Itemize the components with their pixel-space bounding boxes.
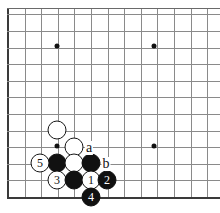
grid-line-horizontal (7, 131, 220, 132)
move-number: 1 (88, 174, 94, 186)
grid-line-vertical (191, 8, 192, 198)
grid-line-horizontal (7, 114, 220, 115)
grid-line-horizontal (7, 147, 220, 148)
grid-line-vertical (157, 8, 158, 198)
grid-line-vertical (174, 8, 175, 198)
grid-line-vertical (124, 8, 125, 198)
star-point (152, 144, 157, 149)
stone-white-5: 5 (31, 154, 50, 173)
star-point (55, 144, 60, 149)
grid-line-vertical (207, 8, 208, 198)
move-number: 4 (88, 191, 94, 203)
grid-line-horizontal (7, 97, 220, 98)
grid-line-horizontal (7, 14, 220, 15)
grid-line-top (7, 8, 220, 9)
grid-line-horizontal (7, 48, 220, 49)
board-edge-bottom (7, 197, 220, 199)
move-number: 5 (37, 157, 43, 169)
move-number: 3 (54, 174, 60, 186)
grid-line-horizontal (7, 81, 220, 82)
grid-line-vertical (141, 8, 142, 198)
star-point (152, 44, 157, 49)
go-board-diagram: 53124 ab (0, 0, 220, 213)
stone-white (48, 121, 67, 140)
marker-a: a (85, 141, 93, 155)
move-number: 2 (104, 174, 110, 186)
grid-line-horizontal (7, 64, 220, 65)
grid-line-vertical (25, 8, 26, 198)
stone-black-2: 2 (98, 171, 117, 190)
stone-black-4: 4 (82, 188, 101, 207)
star-point (55, 44, 60, 49)
grid-line-horizontal (7, 31, 220, 32)
board-edge-left (7, 8, 9, 198)
marker-b: b (102, 157, 111, 171)
